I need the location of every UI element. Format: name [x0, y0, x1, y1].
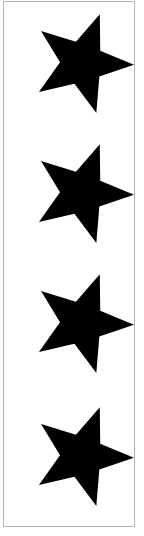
star-item-3	[4, 259, 136, 387]
star-icon	[21, 390, 144, 512]
star-icon	[21, 127, 144, 249]
star-item-2	[4, 129, 136, 257]
star-icon	[21, 0, 144, 119]
star-icon	[21, 257, 144, 379]
image-canvas	[0, 0, 144, 536]
star-item-1	[4, 0, 136, 127]
star-item-4	[4, 392, 136, 520]
panel-border	[3, 1, 135, 527]
